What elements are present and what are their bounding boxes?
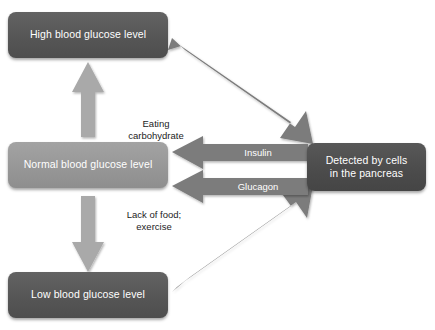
node-low-blood-glucose[interactable]: Low blood glucose level	[8, 272, 168, 318]
arrow-normal-to-low	[72, 196, 104, 272]
node-detected-by-pancreas[interactable]: Detected by cells in the pancreas	[307, 143, 426, 191]
flow-label-eating-carbohydrate: Eating carbohydrate	[108, 106, 204, 142]
node-high-blood-glucose[interactable]: High blood glucose level	[8, 12, 168, 58]
node-detected-by-pancreas-label: Detected by cells in the pancreas	[326, 154, 408, 180]
node-normal-blood-glucose[interactable]: Normal blood glucose level	[8, 142, 168, 188]
node-normal-blood-glucose-label: Normal blood glucose level	[24, 158, 153, 171]
flow-label-eating-carbohydrate-text: Eating carbohydrate	[128, 118, 183, 141]
node-high-blood-glucose-label: High blood glucose level	[30, 28, 146, 41]
flow-label-lack-of-food-exercise-text: Lack of food; exercise	[127, 209, 181, 232]
arrow-label-insulin-text: Insulin	[244, 147, 271, 158]
node-low-blood-glucose-label: Low blood glucose level	[31, 288, 145, 301]
arrow-label-glucagon-text: Glucagon	[238, 181, 279, 192]
arrow-normal-to-high	[72, 62, 104, 137]
arrow-label-insulin: Insulin	[213, 147, 303, 158]
arrow-label-glucagon: Glucagon	[213, 181, 303, 192]
flow-label-lack-of-food-exercise: Lack of food; exercise	[106, 197, 202, 233]
glucose-regulation-diagram: High blood glucose level Normal blood gl…	[0, 0, 435, 330]
